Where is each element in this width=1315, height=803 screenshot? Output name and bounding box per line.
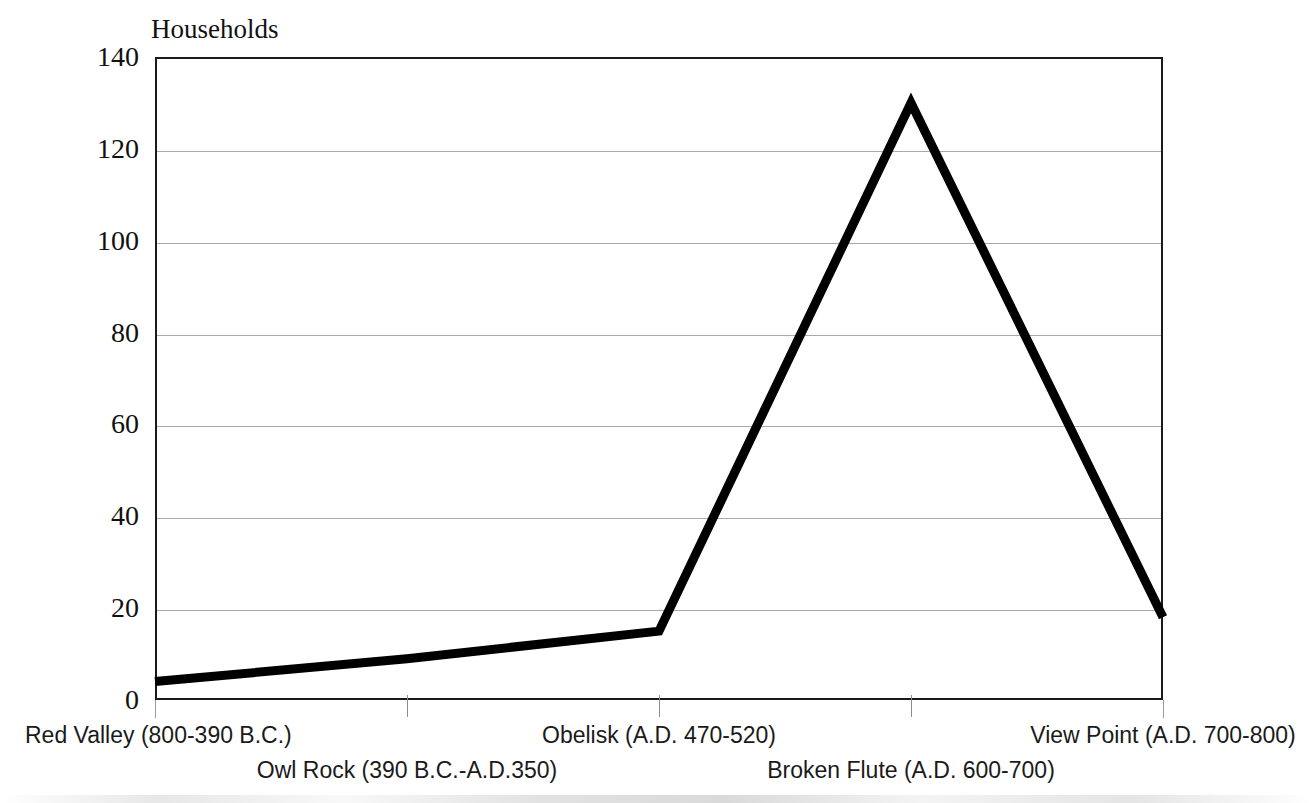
scan-noise-artifact [0, 795, 1315, 803]
y-tick-label-120: 120 [29, 135, 139, 163]
gridline-20 [157, 610, 1161, 611]
x-tick-1 [407, 695, 408, 717]
chart-axis-title: Households [151, 14, 279, 44]
x-tick-4 [1163, 700, 1164, 718]
gridline-80 [157, 335, 1161, 336]
y-axis-tick-labels: 140120100806040200 [0, 0, 139, 803]
x-tick-3 [911, 695, 912, 717]
x-axis-label-4: View Point (A.D. 700-800) [1030, 722, 1296, 748]
y-tick-label-0: 0 [29, 686, 139, 714]
chart-figure: Households 140120100806040200 Red Valley… [0, 0, 1315, 803]
y-tick-label-40: 40 [29, 502, 139, 530]
x-axis-label-2: Obelisk (A.D. 470-520) [542, 722, 776, 748]
y-tick-label-100: 100 [29, 227, 139, 255]
gridline-100 [157, 243, 1161, 244]
x-axis-label-1: Owl Rock (390 B.C.-A.D.350) [257, 757, 557, 783]
y-tick-label-140: 140 [29, 43, 139, 71]
x-axis-label-3: Broken Flute (A.D. 600-700) [767, 757, 1055, 783]
plot-area [155, 57, 1163, 700]
x-tick-0 [155, 700, 156, 718]
y-tick-label-60: 60 [29, 410, 139, 438]
y-tick-label-80: 80 [29, 319, 139, 347]
x-tick-2 [659, 695, 660, 717]
y-tick-label-20: 20 [29, 594, 139, 622]
gridline-120 [157, 151, 1161, 152]
gridline-40 [157, 518, 1161, 519]
x-axis-label-0: Red Valley (800-390 B.C.) [25, 722, 292, 748]
gridline-60 [157, 426, 1161, 427]
